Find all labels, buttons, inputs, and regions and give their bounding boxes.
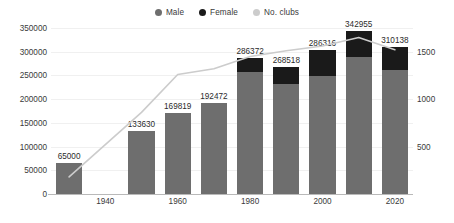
bar-segment-female[interactable] xyxy=(237,58,263,72)
bar-segment-female[interactable] xyxy=(382,47,408,70)
y-axis-left-labels: 0500001000001500002000002500003000003500… xyxy=(0,28,47,194)
circle-swatch-icon xyxy=(155,9,162,16)
y2-axis-tick-label: 1500 xyxy=(417,47,435,56)
y-axis-tick-label: 200000 xyxy=(20,95,47,104)
legend-label-male: Male xyxy=(166,8,184,17)
bar-value-label: 286316 xyxy=(309,39,336,48)
bar-value-label: 310138 xyxy=(381,36,408,45)
bar-value-label: 268518 xyxy=(273,56,300,65)
legend-item-female[interactable]: Female xyxy=(199,8,238,17)
bar-column[interactable]: 268518 xyxy=(273,67,299,194)
bar-column[interactable]: 286316 xyxy=(309,50,335,194)
y-axis-right-labels: 50010001500 xyxy=(417,28,453,194)
legend-label-no-clubs: No. clubs xyxy=(264,8,299,17)
circle-swatch-icon xyxy=(199,9,206,16)
bar-segment-male[interactable] xyxy=(56,163,82,194)
bar-segment-male[interactable] xyxy=(128,131,154,194)
y2-axis-tick-label: 1000 xyxy=(417,95,435,104)
bar-column[interactable]: 192472 xyxy=(201,103,227,194)
bar-segment-female[interactable] xyxy=(273,67,299,85)
bar-column[interactable]: 286372 xyxy=(237,58,263,194)
x-axis-tick-label: 1940 xyxy=(96,197,114,206)
y-axis-tick-label: 150000 xyxy=(20,118,47,127)
bar-column[interactable]: 65000 xyxy=(56,163,82,194)
legend-label-female: Female xyxy=(210,8,238,17)
bar-segment-female[interactable] xyxy=(309,50,335,76)
bar-segment-male[interactable] xyxy=(201,103,227,194)
x-axis-tick-label: 1960 xyxy=(169,197,187,206)
bar-column[interactable]: 310138 xyxy=(382,47,408,194)
y-axis-tick-label: 250000 xyxy=(20,71,47,80)
bar-column[interactable]: 169819 xyxy=(165,113,191,194)
bar-segment-male[interactable] xyxy=(273,84,299,194)
x-axis-labels: 19401960198020002020 xyxy=(51,197,413,211)
y2-axis-tick-label: 500 xyxy=(417,142,431,151)
bar-segment-male[interactable] xyxy=(309,76,335,194)
bar-column[interactable]: 342955 xyxy=(346,31,372,194)
bar-series-group: 6500013363016981919247228637226851828631… xyxy=(51,28,413,194)
y-axis-tick-label: 0 xyxy=(42,190,47,199)
bar-segment-male[interactable] xyxy=(237,72,263,194)
bar-segment-male[interactable] xyxy=(346,57,372,194)
bar-segment-male[interactable] xyxy=(382,70,408,194)
bar-column[interactable]: 133630 xyxy=(128,131,154,194)
combo-bar-line-chart: Male Female No. clubs 050000100000150000… xyxy=(0,0,454,223)
x-axis-tick-label: 1980 xyxy=(241,197,259,206)
y-axis-tick-label: 350000 xyxy=(20,24,47,33)
bar-segment-female[interactable] xyxy=(346,31,372,57)
circle-swatch-icon xyxy=(253,9,260,16)
x-axis-tick-label: 2020 xyxy=(386,197,404,206)
chart-legend: Male Female No. clubs xyxy=(0,4,454,20)
bar-value-label: 192472 xyxy=(200,92,227,101)
bar-value-label: 65000 xyxy=(58,152,81,161)
bar-value-label: 342955 xyxy=(345,20,372,29)
y-axis-tick-label: 50000 xyxy=(24,166,47,175)
x-axis-tick-label: 2000 xyxy=(313,197,331,206)
y-axis-tick-label: 300000 xyxy=(20,47,47,56)
plot-area: 6500013363016981919247228637226851828631… xyxy=(51,28,413,194)
x-axis-baseline xyxy=(48,194,413,195)
bar-segment-male[interactable] xyxy=(165,113,191,194)
bar-value-label: 169819 xyxy=(164,102,191,111)
legend-item-no-clubs[interactable]: No. clubs xyxy=(253,8,299,17)
bar-value-label: 286372 xyxy=(236,47,263,56)
bar-value-label: 133630 xyxy=(128,120,155,129)
legend-item-male[interactable]: Male xyxy=(155,8,184,17)
y-axis-tick-label: 100000 xyxy=(20,142,47,151)
